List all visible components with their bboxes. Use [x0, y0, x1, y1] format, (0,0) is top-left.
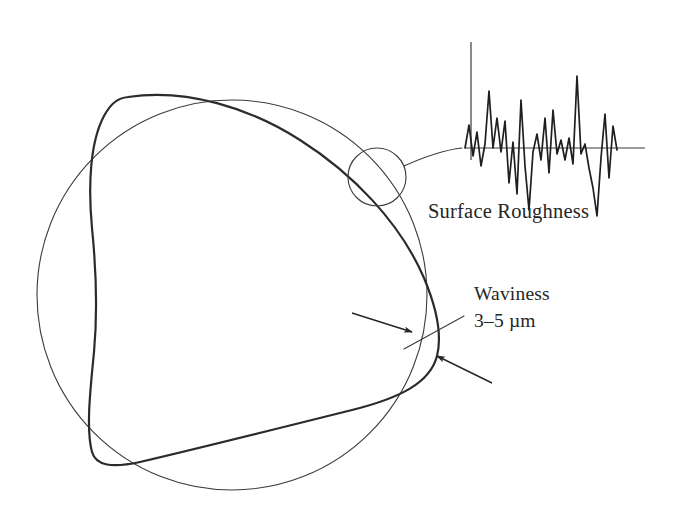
surface-roughness-waviness-diagram: Surface Roughness Waviness 3–5 µm [0, 0, 683, 515]
surface-roughness-label: Surface Roughness [428, 200, 589, 223]
roughness-waveform [465, 76, 617, 216]
roughness-callout-circle [348, 148, 406, 206]
waviness-arrow-lower [437, 356, 492, 383]
figure-root: Surface Roughness Waviness 3–5 µm [0, 0, 683, 515]
waviness-arrow-upper [352, 313, 412, 332]
waviness-label-leader [404, 316, 464, 349]
waviness-label: Waviness [474, 283, 550, 304]
waviness-lobed-curve [89, 95, 439, 465]
roughness-callout-leader [404, 148, 462, 166]
waviness-value-label: 3–5 µm [474, 310, 536, 331]
